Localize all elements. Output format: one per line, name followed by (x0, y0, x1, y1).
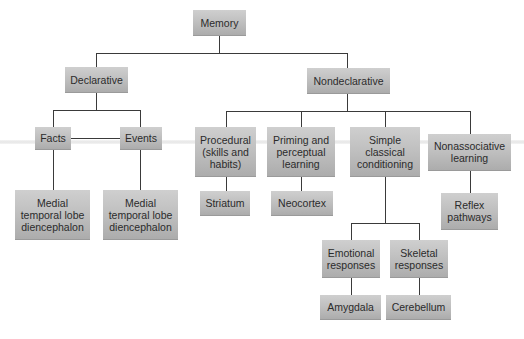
connector (470, 170, 471, 193)
connector (301, 176, 302, 191)
connector (347, 93, 348, 111)
connector (347, 53, 348, 68)
node-label: Declarative (70, 74, 123, 86)
connector (301, 111, 302, 127)
connector (219, 35, 220, 53)
connector (351, 277, 352, 295)
node-label: Amygdala (327, 301, 374, 313)
node-amygdala: Amygdala (320, 295, 381, 319)
node-emotional-responses: Emotional responses (322, 240, 380, 277)
node-nondeclarative: Nondeclarative (307, 68, 390, 93)
connector (53, 110, 141, 111)
connector (140, 110, 141, 127)
node-facts-brain-region: Medial temporal lobe diencephalon (15, 190, 90, 239)
node-label: Simple classical conditioning (357, 134, 413, 170)
node-events: Events (120, 127, 162, 149)
connector (53, 110, 54, 127)
connector (96, 92, 97, 110)
node-priming: Priming and perceptual learning (267, 127, 335, 176)
connector (71, 138, 120, 139)
node-label: Priming and perceptual learning (273, 134, 329, 170)
connector (96, 53, 97, 67)
node-procedural: Procedural (skills and habits) (195, 127, 256, 176)
connector (419, 223, 420, 240)
node-label: Skeletal responses (395, 247, 443, 271)
node-label: Memory (201, 17, 239, 29)
connector (53, 149, 54, 190)
connector (226, 111, 227, 127)
node-label: Medial temporal lobe diencephalon (21, 197, 85, 233)
node-label: Emotional responses (327, 247, 375, 271)
node-reflex-pathways: Reflex pathways (441, 193, 498, 229)
node-events-brain-region: Medial temporal lobe diencephalon (103, 190, 178, 239)
node-label: Nondeclarative (313, 75, 383, 87)
node-label: Medial temporal lobe diencephalon (109, 197, 173, 233)
node-skeletal-responses: Skeletal responses (390, 240, 448, 277)
node-label: Cerebellum (392, 301, 446, 313)
node-label: Striatum (205, 197, 244, 209)
node-memory: Memory (193, 10, 246, 35)
node-cerebellum: Cerebellum (386, 295, 451, 319)
connector (351, 223, 420, 224)
node-declarative: Declarative (65, 67, 128, 92)
connector (226, 176, 227, 191)
connector (226, 111, 471, 112)
node-nonassociative: Nonassociative learning (428, 134, 511, 170)
connector (385, 111, 386, 127)
node-facts: Facts (35, 127, 71, 149)
connector (385, 176, 386, 223)
node-label: Facts (40, 132, 66, 144)
connector (96, 53, 348, 54)
node-label: Events (125, 132, 157, 144)
node-label: Neocortex (278, 197, 326, 209)
node-label: Nonassociative learning (434, 140, 505, 164)
node-simple-classical-conditioning: Simple classical conditioning (350, 127, 420, 176)
node-label: Reflex pathways (447, 199, 491, 223)
node-label: Procedural (skills and habits) (200, 134, 251, 170)
node-neocortex: Neocortex (271, 191, 333, 215)
connector (351, 223, 352, 240)
node-striatum: Striatum (200, 191, 250, 215)
connector (470, 111, 471, 134)
connector (140, 149, 141, 190)
connector (419, 277, 420, 295)
